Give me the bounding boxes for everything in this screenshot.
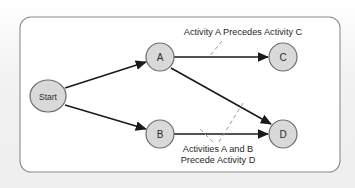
node-label-c: C <box>279 52 286 63</box>
node-c[interactable]: C <box>269 43 297 71</box>
node-start[interactable]: Start <box>30 80 66 112</box>
figure-frame <box>20 17 340 172</box>
node-label-b: B <box>157 129 164 140</box>
annotation-a-precedes-c-line-0: Activity A Precedes Activity C <box>184 27 303 37</box>
annotation-a-and-b-precede-d-line-0: Activities A and B <box>183 144 253 154</box>
annotation-a-and-b-precede-d-line-1: Precede Activity D <box>181 155 256 165</box>
node-a[interactable]: A <box>146 43 174 71</box>
node-label-a: A <box>157 52 164 63</box>
node-b[interactable]: B <box>146 120 174 148</box>
node-label-d: D <box>279 129 286 140</box>
node-label-start: Start <box>39 92 58 102</box>
activity-network-diagram: StartABCD Activity A Precedes Activity C… <box>0 0 355 188</box>
diagram-canvas: StartABCD Activity A Precedes Activity C… <box>0 0 355 188</box>
node-d[interactable]: D <box>269 120 297 148</box>
